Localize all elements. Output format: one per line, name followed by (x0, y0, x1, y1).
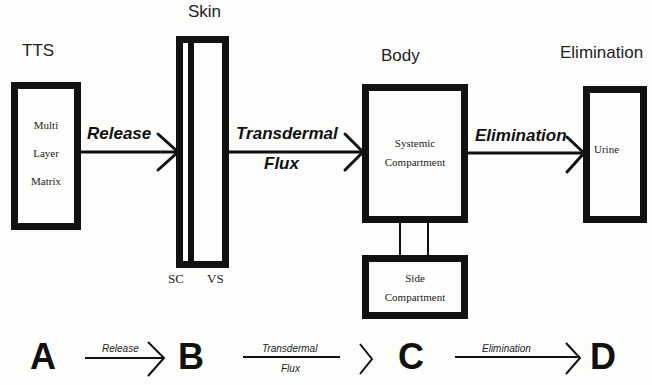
header-body: Body (381, 46, 420, 66)
tts-line-1: Multi (18, 119, 74, 131)
label-sc: SC (168, 271, 184, 287)
scheme-elimination-label: Elimination (482, 343, 531, 354)
scheme-node-b: B (178, 336, 204, 378)
side-line-2: Compartment (369, 291, 461, 303)
transdermal-label: Transdermal (236, 124, 338, 144)
skin-box (176, 36, 229, 268)
scheme-flux-label: Flux (281, 363, 300, 374)
stratum-corneum-divider (188, 43, 194, 261)
side-line-1: Side (369, 272, 461, 284)
urine-label: Urine (594, 143, 619, 155)
tts-line-2: Layer (18, 147, 74, 159)
label-vs: VS (207, 271, 224, 287)
side-compartment-box: Side Compartment (362, 255, 468, 319)
header-skin: Skin (188, 2, 221, 22)
systemic-compartment-box: Systemic Compartment (362, 84, 468, 223)
connector-lines (0, 0, 652, 385)
tts-line-3: Matrix (18, 175, 74, 187)
scheme-release-label: Release (102, 343, 139, 354)
header-elimination: Elimination (560, 43, 643, 63)
header-tts: TTS (22, 41, 54, 61)
scheme-node-d: D (590, 336, 616, 378)
release-label: Release (87, 124, 151, 144)
systemic-line-1: Systemic (369, 137, 461, 149)
flux-label: Flux (264, 154, 299, 174)
urine-box: Urine (583, 86, 647, 223)
scheme-transdermal-label: Transdermal (262, 343, 317, 354)
scheme-node-c: C (398, 336, 424, 378)
systemic-line-2: Compartment (369, 156, 461, 168)
scheme-node-a: A (30, 336, 56, 378)
tts-box: Multi Layer Matrix (11, 82, 81, 230)
elimination-label: Elimination (475, 126, 567, 146)
